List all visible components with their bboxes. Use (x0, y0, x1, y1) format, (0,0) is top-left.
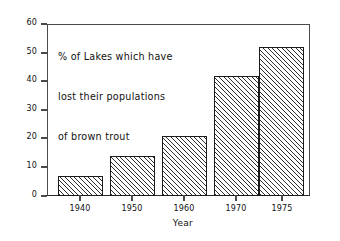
y-tick-label-0: 0 (32, 190, 37, 199)
y-tick-label-40: 40 (26, 75, 37, 84)
x-tick-mark-1940 (79, 195, 80, 201)
y-tick-label-50: 50 (26, 47, 37, 56)
chart-title-line-3: of brown trout (58, 130, 173, 143)
x-tick-label-1970: 1970 (225, 204, 246, 213)
x-tick-label-1975: 1975 (271, 204, 292, 213)
y-tick-label-20: 20 (26, 132, 37, 141)
bar-chart: 0 10 20 30 40 50 60 1940 1950 (0, 0, 340, 241)
x-axis-title: Year (0, 218, 340, 228)
x-axis-title-text: Year (147, 218, 193, 228)
chart-title-line-1: % of Lakes which have (58, 50, 173, 63)
x-tick-mark-1960 (183, 195, 184, 201)
x-tick-mark-1950 (131, 195, 132, 201)
bar-1970 (214, 76, 259, 196)
x-tick-label-1960: 1960 (173, 204, 194, 213)
chart-title: % of Lakes which have lost their populat… (58, 24, 173, 169)
bar-1940 (58, 176, 103, 196)
y-tick-label-10: 10 (26, 161, 37, 170)
x-tick-mark-1975 (281, 195, 282, 201)
y-tick-label-30: 30 (26, 104, 37, 113)
bar-1975 (259, 47, 304, 196)
chart-title-line-2: lost their populations (58, 90, 173, 103)
x-tick-mark-1970 (235, 195, 236, 201)
y-tick-label-60: 60 (26, 18, 37, 27)
x-tick-label-1940: 1940 (69, 204, 90, 213)
x-tick-label-1950: 1950 (121, 204, 142, 213)
